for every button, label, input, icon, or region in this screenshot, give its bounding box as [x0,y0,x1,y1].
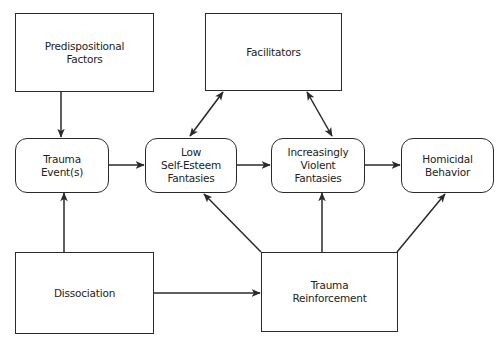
node-homicidal-behavior: Homicidal Behavior [401,138,494,193]
node-trauma-events: Trauma Event(s) [15,138,109,193]
node-trauma-reinforcement: Trauma Reinforcement [261,252,398,332]
edge-facilitators-low-self-esteem [190,92,223,136]
node-low-self-esteem-fantasies: Low Self-Esteem Fantasies [145,138,237,193]
node-increasingly-violent-fantasies: Increasingly Violent Fantasies [271,138,365,193]
edge-facilitators-violent-fantasies [307,92,332,136]
node-label: Predispositional Factors [45,40,125,66]
edge-trauma-reinforcement-to-low-self-esteem [204,194,261,252]
edge-trauma-reinforcement-to-homicidal [397,194,445,252]
node-label: Dissociation [54,287,115,300]
node-label: Low Self-Esteem Fantasies [161,146,221,185]
node-label: Increasingly Violent Fantasies [288,146,349,185]
node-predispositional-factors: Predispositional Factors [15,13,154,92]
node-dissociation: Dissociation [15,252,154,334]
node-facilitators: Facilitators [205,13,342,91]
node-label: Facilitators [246,46,301,59]
node-label: Homicidal Behavior [422,153,472,179]
node-label: Trauma Event(s) [41,153,83,179]
node-label: Trauma Reinforcement [292,279,366,305]
trauma-model-diagram: Predispositional Factors Facilitators Tr… [0,0,504,340]
